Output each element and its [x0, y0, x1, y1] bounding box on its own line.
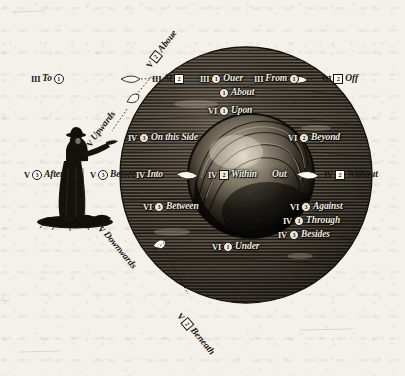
globe — [120, 47, 372, 303]
engraved-plate: III To 1 V 2 Aboue III At 2 III 1 Ouer I… — [0, 0, 405, 376]
engraving-artwork — [0, 0, 405, 376]
standing-man-pointing — [37, 127, 118, 231]
